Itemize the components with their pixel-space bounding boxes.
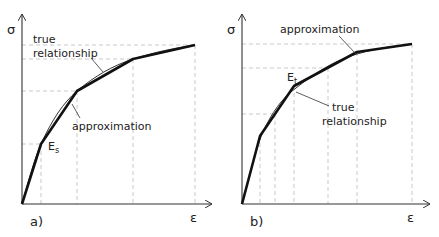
leader-approx-b (339, 36, 356, 54)
x-axis-label-a: ε (190, 210, 197, 225)
y-axis-label-a: σ (7, 22, 15, 37)
panel-a: σ ε true relationship approximation Es a… (7, 14, 212, 229)
true-label-line1-b: true (332, 101, 355, 114)
stress-strain-diagram: σ ε true relationship approximation Es a… (0, 0, 439, 237)
true-label-line1-a: true (33, 33, 56, 46)
leader-true-a (91, 58, 103, 72)
panel-b: σ ε approximation Et true relationship b… (227, 14, 430, 229)
approximation-label-b: approximation (280, 23, 359, 36)
panel-label-a: a) (30, 214, 43, 229)
approximation-label-a: approximation (72, 120, 151, 133)
true-label-line2-a: relationship (33, 47, 98, 60)
true-label-line2-b: relationship (322, 115, 387, 128)
modulus-label-b: Et (287, 71, 297, 86)
modulus-label-a: Es (48, 140, 59, 155)
panel-label-b: b) (250, 214, 263, 229)
leader-true-b (296, 92, 329, 106)
y-axis-label-b: σ (227, 22, 235, 37)
leader-approx-a (72, 104, 80, 118)
x-axis-label-b: ε (407, 210, 414, 225)
